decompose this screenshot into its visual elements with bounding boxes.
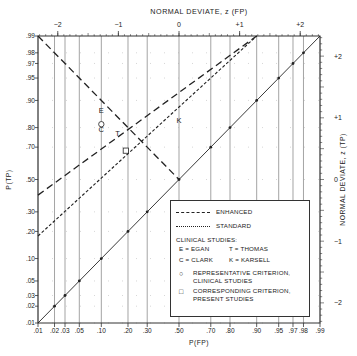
square-marker-icon xyxy=(123,148,128,153)
top-z-tick-label: 0 xyxy=(177,21,181,28)
x-tick-label: .05 xyxy=(75,327,84,334)
clinical-studies-heading: CLINICAL STUDIES: xyxy=(176,237,304,243)
right-z-tick-label: +2 xyxy=(334,53,342,60)
circle-icon: ○ xyxy=(179,270,193,277)
top-z-tick-label: +2 xyxy=(296,21,304,28)
y-tick-label: .95 xyxy=(26,74,35,81)
x-tick-label: .80 xyxy=(225,327,234,334)
legend-circle-criterion: ○ REPRESENTATIVE CRITERION, CLINICAL STU… xyxy=(176,270,304,284)
x-tick-label: .01 xyxy=(33,327,42,334)
x-tick-label: .03 xyxy=(60,327,69,334)
x-tick-label: .50 xyxy=(174,327,183,334)
y-tick-label: .20 xyxy=(26,228,35,235)
y-tick-label: .99 xyxy=(26,32,35,39)
y-tick-label: .02 xyxy=(26,302,35,309)
legend-enhanced-label: ENHANCED xyxy=(216,209,252,215)
study-label-thomas: T xyxy=(115,129,120,138)
x-tick-label: .02 xyxy=(50,327,59,334)
square-icon: □ xyxy=(179,288,193,295)
y-tick-label: .50 xyxy=(26,176,35,183)
circle-criterion-line1: REPRESENTATIVE CRITERION, xyxy=(193,270,290,276)
x-tick-label: .20 xyxy=(123,327,132,334)
x-tick-label: .10 xyxy=(97,327,106,334)
x-tick-label: .95 xyxy=(274,327,283,334)
x-tick-label: .70 xyxy=(206,327,215,334)
short-dash-swatch-icon xyxy=(176,226,210,227)
top-z-tick-label: −1 xyxy=(114,21,122,28)
top-z-tick-label: −2 xyxy=(54,21,62,28)
legend-standard-label: STANDARD xyxy=(216,223,251,229)
y-tick-label: .10 xyxy=(26,255,35,262)
legend-square-criterion: □ CORRESPONDING CRITERION, PRESENT STUDI… xyxy=(176,288,304,302)
x-tick-label: .30 xyxy=(143,327,152,334)
legend-enhanced: ENHANCED xyxy=(176,205,304,219)
y-axis-title: P(TP) xyxy=(5,169,13,189)
long-dash-swatch-icon xyxy=(176,212,210,213)
y-tick-label: .05 xyxy=(26,277,35,284)
right-axis-title: NORMAL DEVIATE, z (TP) xyxy=(339,133,347,226)
y-tick-label: .97 xyxy=(26,60,35,67)
right-z-tick-label: +1 xyxy=(334,114,342,121)
y-tick-label: .70 xyxy=(26,143,35,150)
y-tick-label: .98 xyxy=(26,49,35,56)
x-tick-label: .97 xyxy=(288,327,297,334)
y-tick-label: .90 xyxy=(26,97,35,104)
right-z-tick-label: −1 xyxy=(334,238,342,245)
legend: ENHANCED STANDARD CLINICAL STUDIES: E = … xyxy=(170,200,310,317)
y-tick-label: .80 xyxy=(26,124,35,131)
study-label-karsell: K xyxy=(176,116,181,125)
x-tick-label: .99 xyxy=(315,327,324,334)
y-tick-label: .03 xyxy=(26,292,35,299)
y-tick-label: .30 xyxy=(26,208,35,215)
circle-marker-icon xyxy=(99,122,104,127)
circle-criterion-line2: CLINICAL STUDIES xyxy=(193,278,290,284)
x-tick-label: .98 xyxy=(299,327,308,334)
right-z-tick-label: 0 xyxy=(334,176,338,183)
x-axis-title: P(FP) xyxy=(189,339,209,347)
x-tick-label: .90 xyxy=(252,327,261,334)
square-criterion-line1: CORRESPONDING CRITERION, xyxy=(193,288,291,294)
legend-egan: E = EGAN xyxy=(179,246,229,252)
top-z-tick-label: +1 xyxy=(236,21,244,28)
data-points: ECTK xyxy=(99,106,182,154)
legend-clark: C = CLARK xyxy=(179,257,229,263)
legend-karsell: K = KARSELL xyxy=(229,257,304,263)
square-criterion-line2: PRESENT STUDIES xyxy=(193,296,291,302)
right-z-tick-label: −2 xyxy=(334,299,342,306)
y-tick-label: .01 xyxy=(26,319,35,326)
study-label-egan: E xyxy=(99,106,104,115)
legend-standard: STANDARD xyxy=(176,219,304,233)
top-axis-title: NORMAL DEVIATE, z (FP) xyxy=(150,7,247,16)
clinical-studies-key: E = EGAN T = THOMAS C = CLARK K = KARSEL… xyxy=(176,246,304,263)
legend-thomas: T = THOMAS xyxy=(229,246,304,252)
